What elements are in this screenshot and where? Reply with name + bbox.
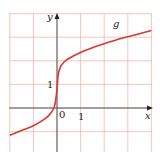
- curve-label: g: [113, 18, 119, 29]
- x-tick-label: 1: [78, 111, 84, 122]
- origin-label: 0: [59, 109, 65, 120]
- y-axis-label: y: [46, 11, 53, 22]
- y-tick-label: 1: [47, 79, 53, 90]
- x-axis-label: x: [145, 110, 151, 121]
- function-graph: y x g 0 1 1: [0, 0, 160, 160]
- grid: [9, 14, 152, 152]
